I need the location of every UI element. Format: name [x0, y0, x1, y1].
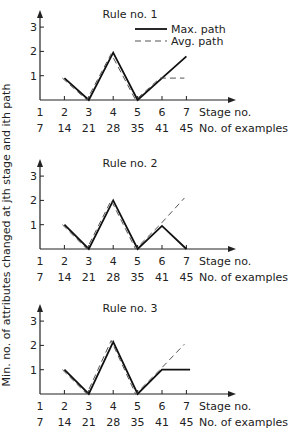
x-tick-label: 2: [61, 106, 68, 119]
y-tick-label: 3: [30, 170, 37, 183]
y-tick-label: 2: [30, 194, 37, 207]
examples-label: 7: [37, 271, 44, 284]
x-tick-label: 1: [37, 255, 44, 268]
y-tick-label: 3: [30, 21, 37, 34]
legend-avg-label: Avg. path: [171, 35, 223, 48]
y-axis-arrow-icon: [37, 159, 43, 167]
y-axis-label: Min. no. of attributes changed at jth st…: [0, 84, 13, 387]
x-tick-label: 7: [183, 255, 190, 268]
examples-label: 14: [57, 271, 71, 284]
x-tick-label: 6: [159, 106, 166, 119]
x-tick-label: 1: [37, 400, 44, 413]
x-axis-arrow-icon: [228, 97, 236, 103]
max-path-line: [64, 53, 186, 100]
y-tick-label: 1: [30, 70, 37, 83]
x-axis-title: Stage no.: [199, 255, 251, 268]
y-axis-arrow-icon: [37, 304, 43, 312]
x-tick-label: 6: [159, 400, 166, 413]
x-axis-title-2: No. of examples: [199, 122, 288, 135]
x-axis-title: Stage no.: [199, 106, 251, 119]
examples-label: 14: [57, 416, 71, 429]
x-tick-label: 6: [159, 255, 166, 268]
x-tick-label: 5: [134, 106, 141, 119]
x-axis-arrow-icon: [228, 246, 236, 252]
examples-label: 7: [37, 122, 44, 135]
chart-panel-2: 12317214321428535641745Stage no.No. of e…: [30, 157, 288, 284]
chart-title: Rule no. 3: [103, 302, 158, 315]
examples-label: 41: [155, 416, 169, 429]
x-tick-label: 3: [85, 106, 92, 119]
x-axis-title-2: No. of examples: [199, 416, 288, 429]
y-tick-label: 3: [30, 315, 37, 328]
examples-label: 14: [57, 122, 71, 135]
examples-label: 21: [82, 416, 96, 429]
examples-label: 41: [155, 271, 169, 284]
examples-label: 28: [106, 122, 120, 135]
x-tick-label: 2: [61, 255, 68, 268]
examples-label: 21: [82, 122, 96, 135]
chart-panel-1: 12317214321428535641745Stage no.No. of e…: [30, 8, 288, 135]
y-axis-arrow-icon: [37, 10, 43, 18]
x-axis-title: Stage no.: [199, 400, 251, 413]
x-tick-label: 4: [110, 255, 117, 268]
y-tick-label: 1: [30, 364, 37, 377]
examples-label: 45: [179, 271, 193, 284]
examples-label: 35: [131, 271, 145, 284]
chart-title: Rule no. 2: [103, 157, 158, 170]
x-tick-label: 4: [110, 400, 117, 413]
x-tick-label: 1: [37, 106, 44, 119]
examples-label: 28: [106, 416, 120, 429]
examples-label: 7: [37, 416, 44, 429]
max-path-line: [64, 342, 190, 394]
examples-label: 45: [179, 122, 193, 135]
max-path-line: [64, 200, 186, 249]
x-tick-label: 3: [85, 400, 92, 413]
y-tick-label: 2: [30, 339, 37, 352]
chart-panel-3: 12317214321428535641745Stage no.No. of e…: [30, 302, 288, 429]
chart-title: Rule no. 1: [103, 8, 158, 21]
x-tick-label: 7: [183, 106, 190, 119]
x-axis-arrow-icon: [228, 391, 236, 397]
y-tick-label: 1: [30, 219, 37, 232]
x-tick-label: 5: [134, 255, 141, 268]
examples-label: 28: [106, 271, 120, 284]
examples-label: 21: [82, 271, 96, 284]
x-tick-label: 5: [134, 400, 141, 413]
examples-label: 35: [131, 122, 145, 135]
x-tick-label: 2: [61, 400, 68, 413]
figure: Min. no. of attributes changed at jth st…: [0, 0, 290, 433]
x-tick-label: 3: [85, 255, 92, 268]
x-tick-label: 7: [183, 400, 190, 413]
x-tick-label: 4: [110, 106, 117, 119]
examples-label: 35: [131, 416, 145, 429]
examples-label: 45: [179, 416, 193, 429]
x-axis-title-2: No. of examples: [199, 271, 288, 284]
examples-label: 41: [155, 122, 169, 135]
y-tick-label: 2: [30, 45, 37, 58]
